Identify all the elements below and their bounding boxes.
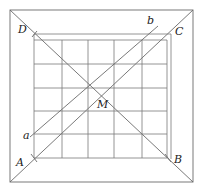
geometry-diagram: A B C D M a b [0,0,201,196]
label-c-point: C [175,25,184,38]
diagram-canvas: A B C D M a b [0,0,201,196]
label-m-point: M [96,98,109,111]
label-line-b: b [147,14,154,27]
label-d-point: D [17,23,27,36]
label-a-point: A [15,156,24,169]
label-line-a: a [23,129,30,142]
label-b-point: B [173,153,182,166]
line-ab [30,26,158,137]
